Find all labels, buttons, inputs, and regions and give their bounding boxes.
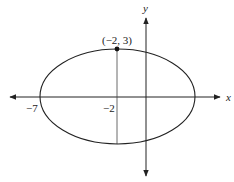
x-axis-label: x: [225, 91, 231, 103]
tick-label-left-vertex: −7: [26, 102, 38, 114]
point-marker: [115, 47, 120, 52]
ellipse-diagram: (−2, 3) −7 −2 x y: [0, 0, 234, 182]
tick-label-center-x: −2: [103, 102, 115, 114]
y-axis-label: y: [142, 2, 148, 14]
point-label: (−2, 3): [102, 34, 132, 47]
